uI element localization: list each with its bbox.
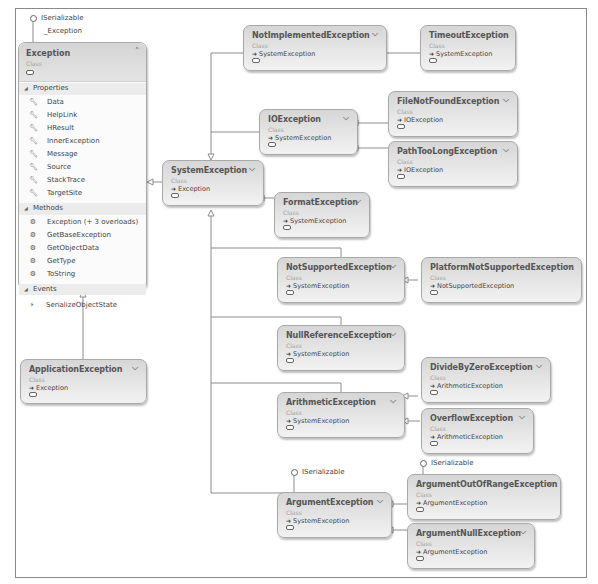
- class-box-argumentoutofrangeexception[interactable]: ArgumentOutOfRangeException Class ➜Argum…: [407, 474, 561, 520]
- class-box-applicationexception[interactable]: ApplicationException Class ➜Exception ⌵: [20, 359, 147, 404]
- expand-chevron-icon[interactable]: ⌵: [377, 496, 383, 506]
- toggle-icon[interactable]: [430, 441, 438, 446]
- method-item[interactable]: ⚙GetObjectData: [27, 244, 99, 252]
- class-box-argumentexception[interactable]: ArgumentException Class ➜SystemException…: [277, 492, 392, 538]
- toggle-icon[interactable]: [416, 507, 424, 512]
- property-item[interactable]: 🔧︎HelpLink: [27, 111, 77, 119]
- inherits-arrow-icon: ➜: [397, 166, 402, 173]
- inherits-arrow-icon: ➜: [430, 282, 435, 289]
- expand-chevron-icon[interactable]: ⌵: [501, 29, 507, 39]
- expand-chevron-icon[interactable]: ⌵: [390, 396, 396, 406]
- property-item[interactable]: 🔧︎Data: [27, 98, 64, 106]
- member-label: Data: [47, 98, 64, 106]
- base-class-label: SystemException: [290, 217, 346, 225]
- class-box-notimplementedexception[interactable]: NotImplementedException Class ➜SystemExc…: [243, 25, 387, 71]
- toggle-icon[interactable]: [26, 70, 34, 75]
- method-item[interactable]: ⚙ToString: [27, 270, 75, 278]
- expand-chevron-icon[interactable]: ⌵: [503, 95, 509, 105]
- method-cube-icon: ⚙: [27, 231, 39, 239]
- property-item[interactable]: 🔧︎InnerException: [27, 137, 100, 145]
- property-item[interactable]: 🔧︎TargetSite: [27, 189, 82, 197]
- expand-chevron-icon[interactable]: ⌵: [390, 329, 396, 339]
- expand-chevron-icon[interactable]: ⌵: [249, 164, 255, 174]
- expand-chevron-icon[interactable]: ⌵: [132, 363, 138, 373]
- class-box-formatexception[interactable]: FormatException Class ➜SystemException ⌵: [274, 192, 370, 238]
- class-box-platformnotsupportedexception[interactable]: PlatformNotSupportedException Class ➜Not…: [421, 257, 582, 303]
- method-item[interactable]: ⚙Exception (+ 3 overloads): [27, 218, 138, 226]
- toggle-icon[interactable]: [430, 390, 438, 395]
- toggle-icon[interactable]: [286, 358, 294, 363]
- class-kind: Class: [286, 342, 302, 349]
- property-item[interactable]: 🔧︎HResult: [27, 124, 74, 132]
- base-class-label: SystemException: [293, 417, 349, 425]
- class-box-timeoutexception[interactable]: TimeoutException Class ➜SystemException …: [420, 25, 516, 71]
- toggle-icon[interactable]: [268, 142, 276, 147]
- class-box-nullreferenceexception[interactable]: NullReferenceException Class ➜SystemExce…: [277, 325, 405, 371]
- expand-chevron-icon[interactable]: ⌵: [567, 261, 573, 271]
- method-cube-icon: ⚙: [27, 270, 39, 278]
- toggle-icon[interactable]: [416, 556, 424, 561]
- toggle-icon[interactable]: [429, 58, 437, 63]
- expand-chevron-icon[interactable]: ⌵: [355, 196, 361, 206]
- method-item[interactable]: ⚙GetType: [27, 257, 76, 265]
- expand-chevron-icon[interactable]: ⌵: [372, 29, 378, 39]
- expand-chevron-icon[interactable]: ⌵: [343, 113, 349, 123]
- toggle-icon[interactable]: [286, 425, 294, 430]
- base-class: ➜NotSupportedException: [430, 282, 514, 290]
- class-box-systemexception[interactable]: SystemException Class ➜Exception ⌵: [162, 160, 264, 206]
- inherits-arrow-icon: ➜: [416, 548, 421, 555]
- toggle-icon[interactable]: [286, 290, 294, 295]
- interface-label: ISerializable: [302, 468, 344, 476]
- section-events[interactable]: ◢ Events: [19, 284, 146, 295]
- expand-chevron-icon[interactable]: ⌵: [546, 478, 552, 488]
- toggle-icon[interactable]: [171, 193, 179, 198]
- class-box-filenotfoundexception[interactable]: FileNotFoundException Class ➜IOException…: [388, 91, 518, 137]
- method-item[interactable]: ⚙GetBaseException: [27, 231, 111, 239]
- base-class-label: ArgumentException: [423, 548, 487, 556]
- property-item[interactable]: 🔧︎StackTrace: [27, 176, 85, 184]
- member-label: Source: [47, 163, 71, 171]
- expand-chevron-icon[interactable]: ⌵: [390, 261, 396, 271]
- section-properties[interactable]: ◢ Properties: [19, 83, 146, 95]
- class-box-overflowexception[interactable]: OverflowException Class ➜ArithmeticExcep…: [421, 408, 534, 454]
- toggle-icon[interactable]: [397, 124, 405, 129]
- class-name: ArgumentOutOfRangeException: [416, 480, 557, 489]
- base-class: ➜Exception: [29, 384, 68, 392]
- class-header: Exception Class ˄: [19, 43, 146, 82]
- section-label: Methods: [33, 204, 63, 212]
- inherits-arrow-icon: ➜: [171, 185, 176, 192]
- class-box-dividebyzeroexception[interactable]: DivideByZeroException Class ➜ArithmeticE…: [421, 357, 551, 403]
- class-box-pathtoolongexception[interactable]: PathTooLongException Class ➜IOException …: [388, 141, 518, 187]
- property-item[interactable]: 🔧︎Message: [27, 150, 78, 158]
- base-class: ➜SystemException: [268, 134, 331, 142]
- expand-chevron-icon[interactable]: ⌵: [520, 527, 526, 537]
- class-box-arithmeticexception[interactable]: ArithmeticException Class ➜SystemExcepti…: [277, 392, 405, 438]
- class-box-exception[interactable]: Exception Class ˄ ◢ Properties 🔧︎Data 🔧︎…: [18, 42, 147, 289]
- section-methods[interactable]: ◢ Methods: [19, 203, 146, 215]
- member-label: Exception (+ 3 overloads): [47, 218, 138, 226]
- base-class-label: ArithmeticException: [437, 433, 503, 441]
- toggle-icon[interactable]: [397, 174, 405, 179]
- member-label: GetType: [47, 257, 76, 265]
- toggle-icon[interactable]: [286, 525, 294, 530]
- expand-chevron-icon[interactable]: ⌵: [536, 361, 542, 371]
- class-kind: Class: [430, 425, 446, 432]
- method-cube-icon: ⚙: [27, 218, 39, 226]
- expand-chevron-icon[interactable]: ⌵: [503, 145, 509, 155]
- base-class: ➜IOException: [397, 166, 443, 174]
- section-label: Properties: [33, 84, 68, 92]
- class-box-notsupportedexception[interactable]: NotSupportedException Class ➜SystemExcep…: [277, 257, 405, 303]
- toggle-icon[interactable]: [430, 290, 438, 295]
- toggle-icon[interactable]: [283, 225, 291, 230]
- toggle-icon[interactable]: [29, 392, 37, 397]
- property-item[interactable]: 🔧︎Source: [27, 163, 71, 171]
- class-box-argumentnullexception[interactable]: ArgumentNullException Class ➜ArgumentExc…: [407, 523, 535, 569]
- class-box-ioexception[interactable]: IOException Class ➜SystemException ⌵: [259, 109, 358, 155]
- expand-chevron-icon[interactable]: ⌵: [519, 412, 525, 422]
- class-name: Exception: [26, 49, 70, 58]
- event-item[interactable]: ⚡︎SerializeObjectState: [26, 301, 117, 309]
- toggle-icon[interactable]: [252, 58, 260, 63]
- class-name: PathTooLongException: [397, 147, 497, 156]
- collapse-icon[interactable]: ˄: [135, 47, 139, 56]
- member-label: ToString: [47, 270, 75, 278]
